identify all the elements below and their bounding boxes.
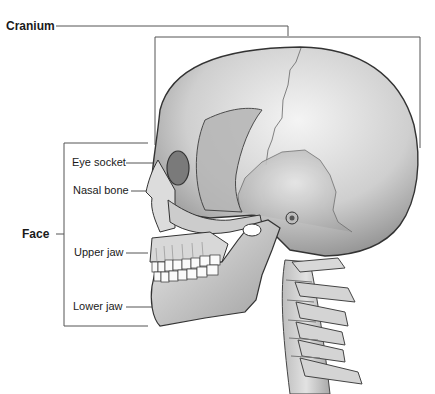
face-bracket [64,143,148,326]
skull-illustration [0,0,435,394]
label-upper-jaw: Upper jaw [74,247,124,258]
skull-diagram: Cranium Face Eye socket Nasal bone Upper… [0,0,435,394]
label-nasal-bone: Nasal bone [73,185,129,196]
label-eye-socket: Eye socket [72,157,126,168]
cranium-leader-line [56,26,288,36]
label-cranium: Cranium [6,20,55,32]
eye-socket-shape [167,151,189,185]
label-face: Face [22,228,49,240]
cervical-spine [282,258,362,394]
label-lower-jaw: Lower jaw [73,301,123,312]
